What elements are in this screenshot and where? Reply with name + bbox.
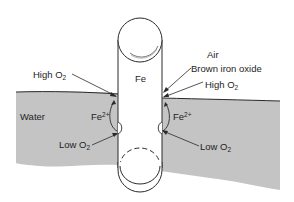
label-high-o2-left: High O2 bbox=[33, 69, 67, 81]
label-air: Air bbox=[207, 49, 219, 60]
label-fe-rod: Fe bbox=[135, 73, 146, 84]
rod-top-cap bbox=[118, 18, 162, 62]
label-water: Water bbox=[20, 111, 45, 122]
label-high-o2-right: High O2 bbox=[205, 79, 239, 91]
label-low-o2-left: Low O2 bbox=[59, 139, 90, 151]
label-low-o2-right: Low O2 bbox=[200, 141, 231, 153]
corrosion-diagram: Fe Air Brown iron oxide High O2 High O2 … bbox=[0, 0, 294, 202]
leader-high-o2-right bbox=[164, 82, 203, 97]
label-brown-iron-oxide: Brown iron oxide bbox=[191, 63, 262, 74]
